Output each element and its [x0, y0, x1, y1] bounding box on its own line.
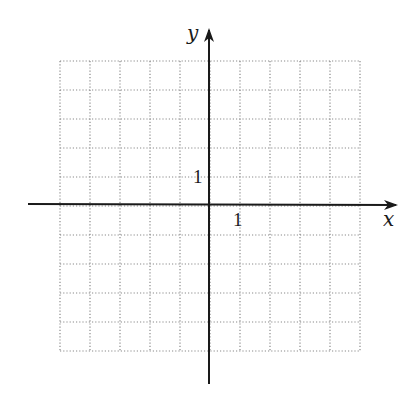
coordinate-plane: x y 1 1	[0, 0, 416, 396]
x-axis-label: x	[383, 207, 394, 231]
x-tick-label-1: 1	[233, 209, 243, 230]
y-axis-label: y	[186, 21, 199, 45]
y-tick-label-1: 1	[193, 166, 203, 187]
x-axis	[28, 204, 396, 205]
